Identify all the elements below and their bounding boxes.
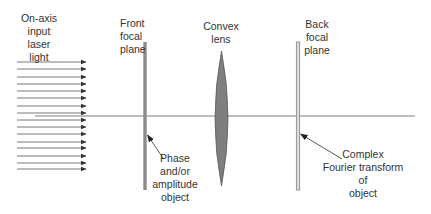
- label-line: focal: [306, 31, 328, 43]
- label-line: Convex: [203, 20, 239, 32]
- fourier-pointer-arrow: [301, 134, 343, 159]
- back-focal-plane: [296, 42, 299, 190]
- object-label: Phase and/or amplitude object: [152, 152, 198, 203]
- front-focal-plane: [143, 42, 146, 190]
- label-line: focal: [120, 30, 142, 42]
- label-line: input: [28, 25, 51, 37]
- label-line: light: [29, 51, 48, 63]
- label-line: object: [349, 187, 377, 199]
- label-line: Back: [305, 18, 329, 30]
- fourier-optics-diagram: On-axis input laser light Front focal pl…: [0, 0, 431, 214]
- label-line: lens: [211, 33, 230, 45]
- label-line: Complex: [342, 148, 384, 160]
- label-line: laser: [28, 38, 51, 50]
- label-line: plane: [120, 43, 146, 55]
- label-line: and/or: [160, 165, 190, 177]
- convex-lens-icon: [215, 51, 228, 186]
- label-line: object: [161, 191, 189, 203]
- label-line: Front: [120, 17, 145, 29]
- front-focal-plane-label: Front focal plane: [120, 17, 146, 55]
- label-line: plane: [304, 44, 330, 56]
- label-line: amplitude: [152, 178, 198, 190]
- convex-lens-label: Convex lens: [203, 20, 239, 45]
- input-light-label: On-axis input laser light: [21, 12, 57, 63]
- back-focal-plane-label: Back focal plane: [304, 18, 330, 56]
- fourier-transform-label: Complex Fourier transform of object: [323, 148, 404, 199]
- label-line: of: [359, 174, 368, 186]
- label-line: On-axis: [21, 12, 57, 24]
- label-line: Phase: [160, 152, 190, 164]
- label-line: Fourier transform: [323, 161, 404, 173]
